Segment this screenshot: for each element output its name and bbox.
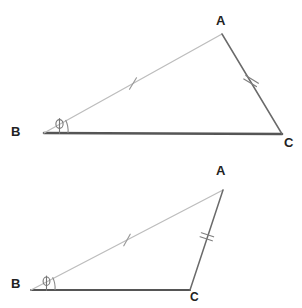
geometry-figure: φ A B C A B C <box>0 0 302 308</box>
triangle-top-side-bc <box>44 133 282 134</box>
triangles-diagram <box>0 0 302 308</box>
triangle-bottom-vertex-label-a: A <box>216 164 225 177</box>
triangle-top-vertex-label-b: B <box>11 125 20 138</box>
triangle-bottom-group <box>31 190 223 291</box>
triangle-top-vertex-label-c: C <box>284 136 293 149</box>
triangle-top-tick-ab-single <box>130 78 137 89</box>
triangle-top-vertex-label-a: A <box>216 14 225 27</box>
triangle-bottom-vertex-label-b: B <box>11 277 20 290</box>
triangle-bottom-tick-ab-single <box>124 234 130 246</box>
triangle-bottom-vertex-label-c: C <box>190 291 199 303</box>
triangle-top-group <box>44 34 282 134</box>
